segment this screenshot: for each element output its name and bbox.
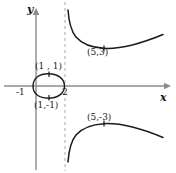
x-axis-label: x [160, 92, 167, 103]
point-label-5-3: (5,3) [87, 48, 108, 57]
point-label-1-neg1: (1,-1) [34, 101, 58, 110]
plot-canvas [0, 0, 176, 173]
y-axis-arrow [33, 8, 40, 15]
upper-branch-curve [68, 10, 163, 48]
graph-figure: y x -1 2 (1 , 1) (1,-1) (5,3) (5,-3) [0, 0, 176, 173]
x-tick-label-minus-1: -1 [16, 88, 25, 97]
x-tick-label-2: 2 [62, 88, 68, 97]
point-label-5-neg3: (5,-3) [87, 113, 111, 122]
lower-branch-curve [68, 124, 163, 162]
y-axis-label: y [27, 4, 33, 15]
x-axis-arrow [164, 83, 171, 89]
point-label-1-1: (1 , 1) [35, 62, 62, 71]
